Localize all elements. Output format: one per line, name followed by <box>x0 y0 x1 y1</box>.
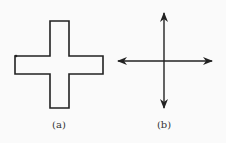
plus-outline-shape <box>15 21 103 108</box>
figure-label-a: (a) <box>44 119 74 130</box>
figure-label-b: (b) <box>149 119 179 130</box>
diagram-svg <box>0 0 226 143</box>
start-point-dot <box>15 55 18 58</box>
cross-arrows <box>118 13 212 108</box>
diagram-canvas: (a) (b) <box>0 0 226 143</box>
